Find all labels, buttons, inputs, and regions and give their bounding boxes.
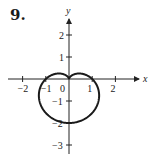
x-axis-label: x — [142, 73, 148, 84]
x-tick-label: 2 — [110, 83, 115, 94]
y-tick-label: −1 — [52, 96, 63, 107]
x-tick-label: 1 — [87, 83, 92, 94]
x-tick-label: 0 — [60, 83, 65, 94]
x-tick-label: −2 — [18, 83, 29, 94]
y-tick-label: 1 — [59, 52, 64, 63]
polar-plot: −2−1012 −3−2−112 x y — [0, 0, 155, 158]
y-axis-label: y — [65, 5, 71, 16]
y-tick-label: −3 — [52, 140, 63, 151]
y-tick-label: 2 — [59, 30, 64, 41]
